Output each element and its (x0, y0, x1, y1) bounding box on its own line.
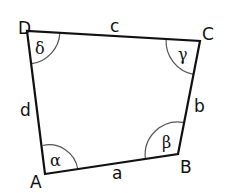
angle-label-gamma: γ (178, 45, 188, 64)
side-label-c: c (110, 16, 119, 36)
side-label-a: a (112, 163, 122, 183)
angle-label-beta: β (162, 133, 171, 152)
side-label-d: d (20, 100, 31, 120)
vertex-label-c: C (202, 24, 214, 44)
quadrilateral-diagram: A B C D a b c d α β γ δ (0, 0, 231, 193)
side-label-b: b (194, 96, 205, 116)
vertex-label-a: A (30, 172, 42, 192)
angle-label-delta: δ (35, 39, 45, 58)
vertex-label-b: B (180, 157, 192, 177)
vertex-label-d: D (18, 18, 31, 38)
angle-label-alpha: α (50, 151, 61, 170)
